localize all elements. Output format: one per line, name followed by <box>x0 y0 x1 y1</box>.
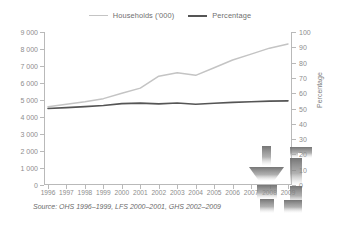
x-axis-tick-label: 2005 <box>207 189 222 196</box>
y-axis-right-tick <box>292 154 296 155</box>
y-axis-right-tick <box>292 47 296 48</box>
x-axis-tick-label: 2004 <box>188 189 203 196</box>
y-axis-right-tick-label: 20 <box>299 151 307 158</box>
y-axis-right-tick-label: 100 <box>299 29 311 36</box>
y-axis-left-tick-label: 0 <box>34 182 38 189</box>
x-axis-tick-label: 2007 <box>244 189 259 196</box>
y-axis-right-tick <box>292 32 296 33</box>
y-axis-left-tick-label: 7 000 <box>20 63 38 70</box>
plot-area: 01 0002 0003 0004 0005 0006 0007 0008 00… <box>44 32 292 185</box>
x-axis-tick-label: 2001 <box>133 189 148 196</box>
y-axis-right-tick <box>292 78 296 79</box>
x-axis-tick-label: 2000 <box>115 189 130 196</box>
x-axis-tick-label: 2003 <box>170 189 185 196</box>
y-axis-right-tick-label: 70 <box>299 74 307 81</box>
y-axis-right-tick-label: 0 <box>299 182 303 189</box>
series-line-households <box>48 44 288 107</box>
y-axis-right-tick <box>292 63 296 64</box>
x-axis-tick-label: 2008 <box>262 189 277 196</box>
legend-line-households-icon <box>89 15 108 16</box>
y-axis-left-tick-label: 5 000 <box>20 97 38 104</box>
y-axis-right-tick-label: 40 <box>299 120 307 127</box>
x-axis-tick-label: 1998 <box>78 189 93 196</box>
y-axis-left-tick-label: 1 000 <box>20 165 38 172</box>
y-axis-left-tick-label: 3 000 <box>20 131 38 138</box>
y-axis-left-tick-label: 4 000 <box>20 114 38 121</box>
y-axis-right-tick <box>292 124 296 125</box>
y-axis-right-tick-label: 50 <box>299 105 307 112</box>
chart-series-layer <box>44 32 292 185</box>
y-axis-right-tick-label: 60 <box>299 90 307 97</box>
x-axis-tick-label: 1997 <box>59 189 74 196</box>
legend-item-households: Households ('000) <box>89 11 174 20</box>
y-axis-right-tick-label: 90 <box>299 44 307 51</box>
y-axis-right-tick-label: 10 <box>299 166 307 173</box>
y-axis-left-tick-label: 2 000 <box>20 148 38 155</box>
y-axis-right-tick <box>292 93 296 94</box>
y-axis-left-tick-label: 9 000 <box>20 29 38 36</box>
y-axis-right-title: Percentage <box>316 72 323 108</box>
x-axis-tick-label: 2006 <box>225 189 240 196</box>
x-axis-tick-label: 2009 <box>281 189 296 196</box>
y-axis-left-tick-label: 6 000 <box>20 80 38 87</box>
y-axis-right-tick <box>292 109 296 110</box>
chart-container: Households ('000) Percentage 01 0002 000… <box>0 0 340 227</box>
legend-label-households: Households ('000) <box>113 11 174 20</box>
y-axis-right-tick-label: 80 <box>299 59 307 66</box>
chart-legend: Households ('000) Percentage <box>0 11 340 20</box>
legend-line-percentage-icon <box>188 15 207 17</box>
y-axis-left-tick-label: 8 000 <box>20 46 38 53</box>
y-axis-right-tick <box>292 139 296 140</box>
y-axis-right-tick <box>292 185 296 186</box>
x-axis-tick-label: 1999 <box>96 189 111 196</box>
y-axis-right-tick-label: 30 <box>299 136 307 143</box>
x-axis-tick-label: 1996 <box>41 189 56 196</box>
y-axis-left-tick <box>40 185 44 186</box>
x-axis-tick-label: 2002 <box>151 189 166 196</box>
legend-label-percentage: Percentage <box>212 11 251 20</box>
y-axis-right-tick <box>292 170 296 171</box>
legend-item-percentage: Percentage <box>188 11 251 20</box>
source-note: Source: OHS 1996–1999, LFS 2000–2001, GH… <box>33 203 221 210</box>
